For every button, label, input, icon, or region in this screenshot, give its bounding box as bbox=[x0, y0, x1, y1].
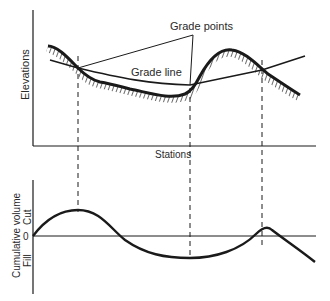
grade-line-label: Grade line bbox=[131, 66, 182, 78]
stations-axis-label: Stations bbox=[155, 149, 191, 160]
grade-points-leader-right bbox=[190, 35, 193, 85]
upper-chart: Grade points Grade line Elevations Stati… bbox=[19, 10, 316, 160]
mass-diagram: Grade points Grade line Elevations Stati… bbox=[0, 0, 330, 301]
lower-chart: 0 Cumulative volume Cut Fill bbox=[11, 180, 316, 294]
grade-points-leader-left bbox=[78, 35, 193, 68]
elevations-axis-label: Elevations bbox=[19, 49, 31, 100]
cut-label: Cut bbox=[22, 209, 33, 225]
zero-label: 0 bbox=[23, 231, 29, 242]
cumulative-volume-label: Cumulative volume bbox=[11, 193, 22, 278]
fill-label: Fill bbox=[22, 254, 33, 267]
grade-points-label: Grade points bbox=[170, 20, 233, 32]
